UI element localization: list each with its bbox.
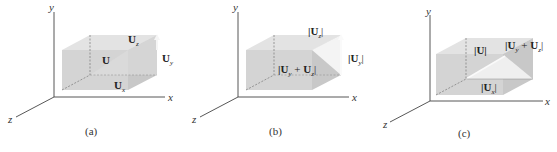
z-axis-label: z [383,119,387,130]
label-uz: Uz [128,34,139,48]
z-axis [390,101,430,122]
label-u-magnitude: |U| [474,45,487,56]
label-uz-magnitude: |Uz| [308,26,323,40]
caption-a: (a) [85,126,97,137]
panel-b [200,12,349,117]
y-axis-label: y [233,2,238,13]
label-uy-magnitude: |Uy| [348,53,364,67]
panel-c [390,15,543,122]
panel-a [16,12,165,117]
z-axis [16,97,54,117]
z-axis [200,97,238,117]
label-uy-plus-uz-magnitude: |Uy + Uz| [278,64,316,78]
label-uy-plus-uz-magnitude: |Uy + Uz| [505,40,543,54]
x-axis-label: x [168,92,173,103]
x-axis-label: x [352,92,357,103]
caption-b: (b) [269,126,282,137]
z-axis-label: z [8,114,12,125]
x-axis-label: x [545,96,550,107]
label-u: U [102,55,110,66]
caption-c: (c) [458,128,470,139]
y-axis-label: y [49,2,54,13]
label-uy: Uy [162,53,173,67]
y-axis-label: y [426,6,431,17]
label-ux: Ux [114,80,125,94]
z-axis-label: z [192,114,196,125]
label-ux-magnitude: |Ux| [481,82,497,96]
